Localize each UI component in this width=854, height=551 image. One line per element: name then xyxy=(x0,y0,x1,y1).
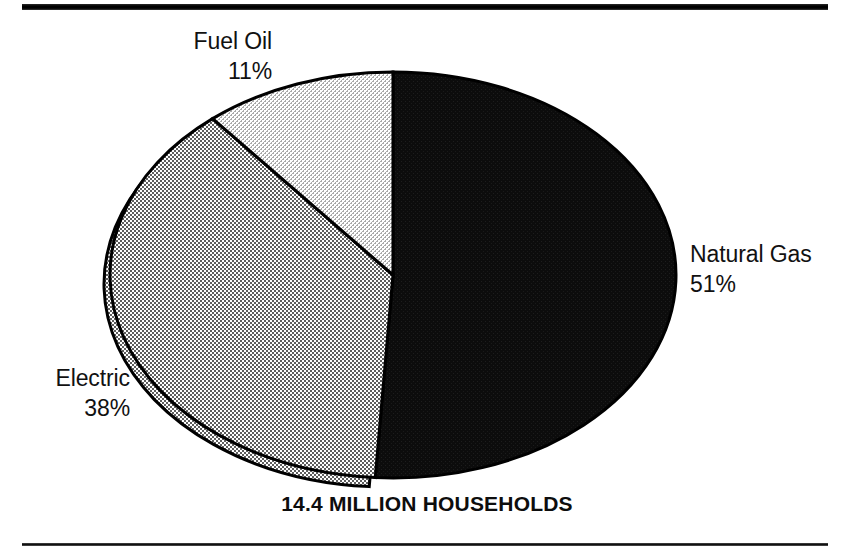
chart-caption: 14.4 MILLION HOUSEHOLDS xyxy=(0,492,854,516)
pie-label-natural-gas-value: 51% xyxy=(690,269,812,299)
pie-label-fuel-oil: Fuel Oil 11% xyxy=(52,26,272,86)
pie-label-natural-gas: Natural Gas 51% xyxy=(690,239,812,299)
pie-label-fuel-oil-value: 11% xyxy=(52,56,272,86)
pie-label-electric: Electric 38% xyxy=(0,363,130,423)
pie-slices xyxy=(110,72,676,478)
bottom-divider-rule xyxy=(22,543,828,546)
pie-label-fuel-oil-name: Fuel Oil xyxy=(52,26,272,56)
figure-container: Fuel Oil 11% Natural Gas 51% Electric 38… xyxy=(0,0,854,551)
pie-label-electric-value: 38% xyxy=(0,393,130,423)
pie-label-electric-name: Electric xyxy=(0,363,130,393)
pie-label-natural-gas-name: Natural Gas xyxy=(690,239,812,269)
pie-slice-natural-gas[interactable] xyxy=(375,72,676,478)
